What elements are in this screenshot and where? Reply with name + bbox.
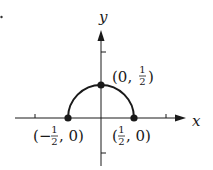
label-right-point: ( 1 2 , 0)	[112, 124, 151, 147]
label-top-den: 2	[139, 76, 145, 87]
label-top-close: )	[148, 68, 154, 86]
label-right-tail: , 0)	[126, 127, 151, 145]
label-right-den: 2	[118, 136, 124, 147]
label-left-tail: , 0)	[59, 127, 84, 145]
label-left-den: 2	[51, 136, 57, 147]
label-right-num: 1	[118, 124, 124, 135]
label-left-neg: −	[39, 127, 52, 145]
y-axis-label: y	[98, 8, 108, 26]
point-right	[130, 114, 137, 121]
x-axis-label: x	[192, 112, 201, 130]
x-axis-arrow-icon	[175, 115, 186, 122]
label-left-point: ( − 1 2 , 0)	[33, 124, 84, 147]
label-top-head: (0,	[112, 68, 132, 86]
point-left	[64, 114, 71, 121]
stray-dot	[0, 16, 2, 18]
y-axis-arrow-icon	[98, 30, 105, 41]
label-right-open: (	[112, 127, 118, 145]
label-left-open: (	[33, 127, 39, 145]
semicircle-graph: x y (0, 1 2 ) ( − 1 2 , 0) ( 1 2 , 0)	[0, 0, 213, 170]
label-left-num: 1	[51, 124, 57, 135]
label-top-point: (0, 1 2 )	[112, 64, 154, 87]
point-top	[97, 81, 104, 88]
label-top-num: 1	[139, 64, 145, 75]
